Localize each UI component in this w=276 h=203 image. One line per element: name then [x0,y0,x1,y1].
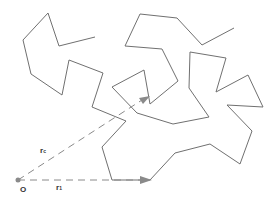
r1-label-sub: 1 [59,185,62,191]
origin-point [16,178,21,183]
rc-label: rc [40,146,46,155]
vector-r1 [18,176,152,184]
r1-label: r1 [56,183,62,192]
rc-label-sub: c [43,148,46,154]
random-walk-chain [23,13,263,180]
origin-label: O [20,185,26,194]
polymer-chain-diagram [0,0,276,203]
vector-rc [18,96,150,180]
